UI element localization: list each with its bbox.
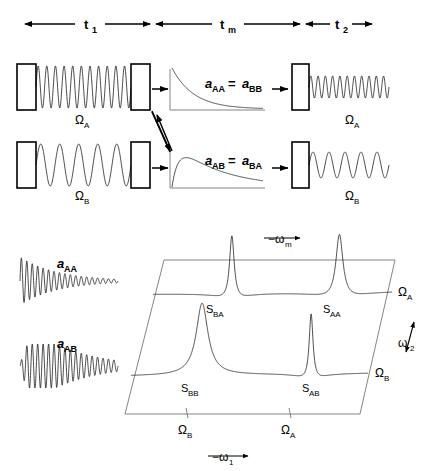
pulse-block-b-second: [131, 142, 150, 188]
t2-label: t: [335, 17, 340, 32]
peak-sub-sbb: BB: [188, 389, 199, 398]
detection-omega-a-label: Ω: [345, 113, 354, 127]
evolution-omega-b-subscript: B: [84, 197, 89, 206]
pulse-block-a-detect: [292, 64, 309, 110]
tm-subscript: m: [228, 25, 236, 35]
spectrum-bottom-ticks: Ω B Ω A: [178, 408, 296, 440]
detection-wave-b: [309, 152, 389, 178]
pulse-block-b-first: [17, 142, 36, 188]
figure-root: t 1 t m t 2 Ω A a AA = a BB: [0, 0, 433, 471]
exchange-arrow-b-to-a: [157, 115, 172, 151]
omega-m-label: −ω: [268, 232, 284, 246]
fid-aa-subscript: AA: [64, 264, 77, 274]
omega-m-subscript: m: [285, 240, 292, 249]
axis-omega-2: ω 2: [398, 322, 415, 353]
omega-1-subscript: 1: [229, 458, 234, 467]
detection-omega-b-subscript: B: [354, 197, 359, 206]
tick-label-omega-b: Ω: [178, 423, 187, 437]
mixing-sub-a-left: AA: [212, 84, 225, 94]
mixing-equals-a: =: [228, 76, 236, 91]
spectrum-row-a-subscript: A: [407, 293, 413, 302]
detection-omega-b-label: Ω: [345, 189, 354, 203]
t1-subscript: 1: [92, 25, 97, 35]
t2-subscript: 2: [343, 25, 348, 35]
pulse-row-a: Ω A a AA = a BB Ω A: [17, 64, 389, 130]
spectrum-parallelogram-frame: [125, 260, 395, 414]
peak-sub-saa: AA: [330, 310, 341, 319]
pulse-row-b: Ω B a AB = a BA Ω B: [17, 142, 389, 206]
tick-sub-omega-a: A: [290, 431, 296, 440]
omega-1-label: −ω: [212, 450, 228, 464]
evolution-omega-a-label: Ω: [75, 113, 84, 127]
pulse-block-b-detect: [292, 142, 309, 188]
exchange-cross-arrows: [152, 111, 172, 152]
fid-ab-subscript: AB: [64, 344, 77, 354]
peak-sub-sba: BA: [213, 310, 224, 319]
spectrum-row-b-label: Ω: [375, 366, 384, 380]
t1-label: t: [84, 17, 89, 32]
detection-omega-a-subscript: A: [354, 121, 360, 130]
tick-omega-a: [289, 408, 291, 418]
evolution-wave-a: [36, 66, 131, 108]
omega-2-subscript: 2: [410, 344, 415, 353]
timeline-segment-t2: t 2: [306, 17, 372, 35]
mixing-sub-a-right: BB: [249, 84, 262, 94]
tick-omega-b: [186, 408, 188, 418]
evolution-omega-a-subscript: A: [84, 121, 90, 130]
mixing-sub-b-left: AB: [212, 161, 225, 171]
pulse-block-a-first: [17, 64, 36, 110]
mixing-equals-b: =: [228, 153, 236, 168]
pulse-block-a-second: [131, 64, 150, 110]
peak-sub-sab: AB: [309, 389, 320, 398]
tm-label: t: [220, 17, 225, 32]
tick-label-omega-a: Ω: [281, 423, 290, 437]
fid-group: a AA a AB: [20, 256, 118, 388]
axis-omega-m: −ω m: [264, 232, 300, 249]
axis-omega-1: −ω 1: [208, 450, 248, 467]
tick-sub-omega-b: B: [187, 431, 192, 440]
detection-wave-a: [309, 76, 389, 98]
exchange-arrow-helper: [152, 112, 170, 152]
timeline-segment-tm: t m: [156, 17, 300, 35]
spectrum-group: −ω m Ω A S BA S AA Ω B S BB S AB Ω B Ω A: [125, 232, 415, 467]
timeline-group: t 1 t m t 2: [25, 17, 372, 35]
spectrum-row-a-label: Ω: [398, 285, 407, 299]
timeline-segment-t1: t 1: [25, 17, 150, 35]
spectrum-row-b-subscript: B: [384, 374, 389, 383]
evolution-wave-b: [36, 144, 131, 186]
omega-2-label: ω: [398, 336, 407, 350]
evolution-omega-b-label: Ω: [75, 189, 84, 203]
mixing-sub-b-right: BA: [249, 161, 262, 171]
